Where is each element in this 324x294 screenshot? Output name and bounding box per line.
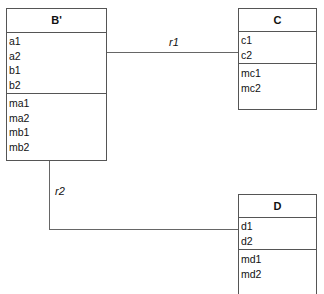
method: mc1: [241, 66, 316, 81]
method: mc2: [241, 81, 316, 96]
methods-section: mc1 mc2: [239, 64, 316, 95]
method: mb1: [9, 125, 106, 140]
class-name: D: [239, 195, 316, 218]
method: md2: [241, 267, 316, 282]
attributes-section: d1 d2: [239, 218, 316, 250]
attribute: c1: [241, 33, 316, 48]
class-name: C: [239, 9, 316, 32]
attribute: c2: [241, 48, 316, 63]
method: md1: [241, 252, 316, 267]
attribute: b1: [9, 63, 106, 78]
method: ma1: [9, 96, 106, 111]
methods-section: md1 md2: [239, 250, 316, 281]
relation-r2-line-horizontal: [49, 229, 238, 230]
attribute: d2: [241, 234, 316, 249]
method: ma2: [9, 111, 106, 126]
class-d[interactable]: D d1 d2 md1 md2: [238, 194, 317, 294]
relation-r1-label: r1: [169, 36, 179, 48]
attribute: a1: [9, 34, 106, 49]
relation-r1-line: [106, 52, 238, 53]
relation-r2-line-vertical: [49, 160, 50, 230]
attributes-section: c1 c2: [239, 32, 316, 64]
attributes-section: a1 a2 b1 b2: [7, 33, 106, 94]
relation-r2-label: r2: [55, 185, 65, 197]
attribute: d1: [241, 219, 316, 234]
class-name: B': [7, 9, 106, 33]
attribute: b2: [9, 78, 106, 93]
class-b-prime[interactable]: B' a1 a2 b1 b2 ma1 ma2 mb1 mb2: [6, 8, 107, 161]
methods-section: ma1 ma2 mb1 mb2: [7, 94, 106, 154]
class-c[interactable]: C c1 c2 mc1 mc2: [238, 8, 317, 110]
attribute: a2: [9, 49, 106, 64]
method: mb2: [9, 140, 106, 155]
